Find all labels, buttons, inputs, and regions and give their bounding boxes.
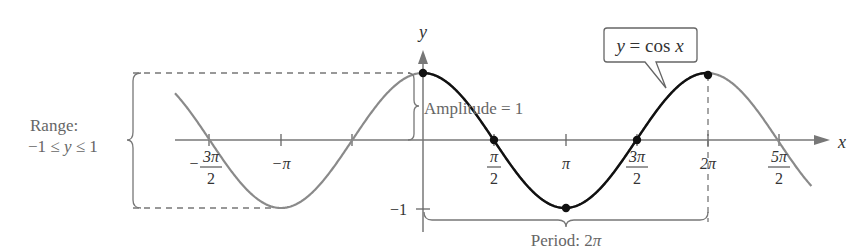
function-callout: y = cos x: [604, 28, 697, 88]
point-min-pi: [562, 204, 570, 212]
tick-pi2-den: 2: [490, 170, 498, 187]
y-tick-neg1: −1: [390, 201, 407, 218]
tick-neg-3pi2-num: 3π: [202, 148, 220, 165]
amplitude-label: Amplitude = 1: [424, 99, 523, 118]
cosine-chart: y = cos x y x − 3π 2 −π π 2 π 3π 2 2π 5π…: [0, 0, 858, 252]
range-value: −1 ≤ y ≤ 1: [28, 137, 98, 156]
point-zero-3pi-half: [633, 136, 641, 144]
x-axis-label: x: [837, 132, 846, 152]
callout-label: y = cos x: [614, 35, 684, 56]
tick-5pi2-num: 5π: [771, 148, 788, 165]
tick-pi: π: [562, 155, 571, 172]
tick-3pi2-num: 3π: [628, 148, 646, 165]
period-label: Period: 2π: [531, 231, 602, 250]
x-axis-arrow-icon: [814, 135, 830, 145]
tick-5pi2-den: 2: [775, 170, 783, 187]
tick-neg-3pi2-den: 2: [207, 170, 215, 187]
dashed-guides: [133, 73, 708, 222]
y-axis-label: y: [417, 22, 427, 42]
tick-3pi2-den: 2: [633, 170, 641, 187]
range-title: Range:: [30, 116, 78, 135]
tick-pi2-num: π: [490, 148, 499, 165]
point-max-0: [419, 69, 427, 77]
tick-minus-sign: −: [189, 155, 198, 172]
point-zero-pi-half: [490, 136, 498, 144]
x-tick-labels: − 3π 2 −π π 2 π 3π 2 2π 5π 2: [189, 148, 790, 187]
tick-neg-pi: −π: [272, 155, 292, 172]
range-brace: [127, 73, 141, 208]
tick-2pi: 2π: [700, 155, 717, 172]
period-brace: [424, 212, 708, 227]
amplitude-brace: [408, 73, 419, 140]
y-axis-arrow-icon: [418, 50, 428, 64]
point-max-2pi: [704, 71, 712, 79]
